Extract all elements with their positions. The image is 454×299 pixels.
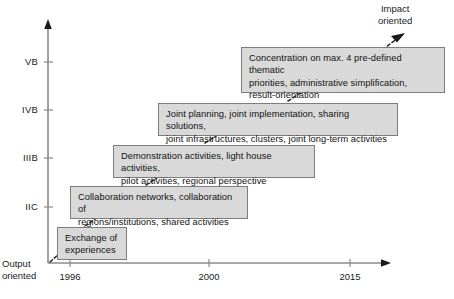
y-axis-arrowhead [44,19,52,29]
y-axis-label-iiib: IIIB [6,152,38,163]
diagram-canvas: VB IVB IIIB IIC 1996 2000 2015 Output or… [0,0,454,299]
x-axis-arrowhead [381,259,391,267]
stage-box-concentration[interactable]: Concentration on max. 4 pre-defined them… [241,47,445,93]
output-oriented-label: Output oriented [2,258,36,281]
stage-box-joint-planning[interactable]: Joint planning, joint implementation, sh… [158,103,398,136]
x-axis-label-1996: 1996 [48,271,92,282]
x-axis-label-2000: 2000 [187,271,231,282]
y-axis-label-iic: IIC [6,201,38,212]
stage-box-demonstration[interactable]: Demonstration activities, light house ac… [113,145,315,178]
impact-oriented-label: Impact oriented [378,3,412,26]
stage-box-exchange[interactable]: Exchange of experiences [57,227,127,260]
stage-box-collaboration[interactable]: Collaboration networks, collaboration of… [70,186,248,219]
y-axis-label-vb: VB [6,56,38,67]
x-axis-label-2015: 2015 [328,271,372,282]
y-axis-label-ivb: IVB [6,104,38,115]
